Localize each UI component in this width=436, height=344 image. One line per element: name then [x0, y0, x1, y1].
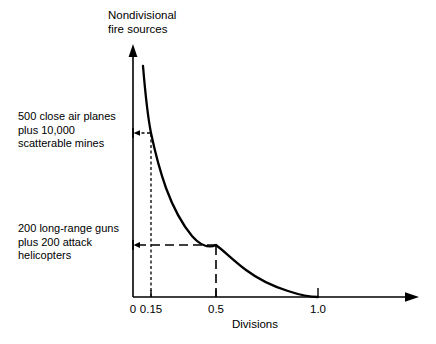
annotation-air-planes-line3: scatterable mines: [18, 137, 104, 149]
annotation-long-range-guns-line1: 200 long-range guns: [18, 222, 119, 234]
annotation-air-planes: 500 close air planesplus 10,000scatterab…: [18, 110, 116, 151]
y-axis-title-line1: Nondivisional: [108, 9, 176, 21]
annotation-air-planes-line1: 500 close air planes: [18, 110, 116, 122]
leader-line-lower: [133, 240, 216, 297]
chart-canvas: [0, 0, 436, 344]
x-axis-title: Divisions: [232, 318, 278, 331]
annotation-long-range-guns-line2: plus 200 attack: [18, 236, 92, 248]
annotation-long-range-guns: 200 long-range gunsplus 200 attackhelico…: [18, 222, 119, 263]
y-axis-title: Nondivisionalfire sources: [108, 8, 176, 36]
y-axis: [129, 44, 138, 297]
y-axis-title-line2: fire sources: [108, 23, 167, 35]
annotation-air-planes-line2: plus 10,000: [18, 124, 75, 136]
annotation-long-range-guns-line3: helicopters: [18, 249, 71, 261]
x-tick-label-015: 0.15: [136, 303, 166, 315]
leader-line-upper: [133, 128, 151, 297]
chart-figure: Nondivisionalfire sources Divisions 500 …: [0, 0, 436, 344]
tradeoff-curve: [143, 66, 318, 297]
x-tick-label-10: 1.0: [305, 303, 331, 315]
x-tick-label-05: 0.5: [203, 303, 229, 315]
x-axis: [133, 292, 419, 302]
